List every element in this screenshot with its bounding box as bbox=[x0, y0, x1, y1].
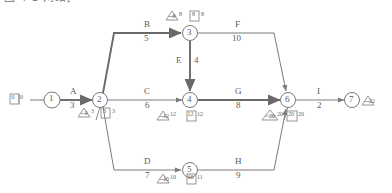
edge-F bbox=[198, 33, 286, 91]
node-5-triangle-right-value: 10 bbox=[170, 174, 176, 180]
edge-B bbox=[103, 33, 181, 93]
node-2-triangle-left-value: 3 bbox=[85, 110, 88, 116]
edge-label-H-duration: 9 bbox=[236, 170, 241, 180]
edge-label-D-duration: 7 bbox=[145, 170, 150, 180]
edge-label-B-name: B bbox=[144, 19, 150, 29]
node-6-box-left-value: 20 bbox=[288, 111, 294, 117]
node-label-6: 6 bbox=[285, 94, 290, 104]
node-label-7: 7 bbox=[349, 94, 354, 104]
edge-label-F-name: F bbox=[235, 19, 240, 29]
node-5-box-left-value: 10 bbox=[188, 174, 194, 180]
edge-label-E-name: E bbox=[176, 55, 182, 65]
leader-line-node-2 bbox=[96, 107, 100, 120]
edge-label-C-name: C bbox=[144, 86, 150, 96]
edge-label-A-name: A bbox=[70, 86, 77, 96]
node-6-box-right-value: 20 bbox=[298, 111, 304, 117]
node-label-4: 4 bbox=[187, 94, 192, 104]
edge-label-H-name: H bbox=[235, 156, 242, 166]
node-4-triangle-left-value: 12 bbox=[163, 113, 169, 119]
network-diagram-canvas: 图 4-1 网络图及参数 bbox=[0, 0, 392, 193]
node-6-triangle-right-value: 20 bbox=[277, 111, 283, 117]
node-2-triangle-right-value: 3 bbox=[91, 108, 94, 114]
node-2-box-left-value: 3 bbox=[103, 108, 106, 114]
edge-label-G-duration: 8 bbox=[236, 100, 241, 110]
node-3-box-right-value: 8 bbox=[201, 11, 204, 17]
node-1-box-left-value: 0 bbox=[12, 94, 15, 100]
edge-label-I-duration: 2 bbox=[317, 100, 322, 110]
node-1-box-right-value: 0 bbox=[20, 94, 23, 100]
edge-label-B-duration: 5 bbox=[144, 33, 149, 43]
network-graph-svg bbox=[0, 0, 392, 193]
edge-label-G-name: G bbox=[235, 86, 242, 96]
node-label-3: 3 bbox=[187, 27, 192, 37]
edge-label-C-duration: 6 bbox=[145, 100, 150, 110]
node-6-triangle-left-value: 20 bbox=[269, 113, 275, 119]
node-4-box-right-value: 12 bbox=[197, 111, 203, 117]
edge-label-E-duration: 4 bbox=[194, 55, 199, 65]
node-2-box-right-value: 3 bbox=[112, 108, 115, 114]
node-3-box-left-value: 8 bbox=[192, 11, 195, 17]
edge-label-F-duration: 10 bbox=[232, 33, 241, 43]
node-3-triangle-right-value: 8 bbox=[179, 11, 182, 17]
node-4-box-left-value: 12 bbox=[188, 111, 194, 117]
node-label-1: 1 bbox=[49, 93, 54, 103]
node-label-2: 2 bbox=[97, 94, 102, 104]
edge-label-A-duration: 3 bbox=[70, 100, 75, 110]
node-3-triangle-left-value: 8 bbox=[173, 13, 176, 19]
edge-label-D-name: D bbox=[144, 156, 151, 166]
node-7-triangle-left-value: 22 bbox=[369, 98, 375, 104]
node-5-triangle-left-value: 10 bbox=[163, 176, 169, 182]
edge-label-I-name: I bbox=[317, 86, 320, 96]
node-label-5: 5 bbox=[187, 164, 192, 174]
node-4-triangle-right-value: 12 bbox=[170, 111, 176, 117]
node-5-box-right-value: 11 bbox=[197, 174, 203, 180]
